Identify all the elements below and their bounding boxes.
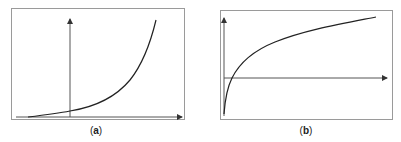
- figure-graphics: [0, 0, 401, 142]
- panel-a: [12, 9, 185, 120]
- caption-a-close: ): [99, 125, 102, 136]
- panel-b-frame: [221, 11, 393, 120]
- caption-b-close: ): [309, 125, 312, 136]
- panel-b: [221, 11, 393, 120]
- panel-a-exponential-curve: [28, 20, 156, 117]
- figure: (a) (b): [0, 0, 401, 142]
- caption-b: (b): [291, 125, 321, 136]
- caption-a: (a): [81, 125, 111, 136]
- panel-b-logarithmic-curve: [224, 17, 376, 114]
